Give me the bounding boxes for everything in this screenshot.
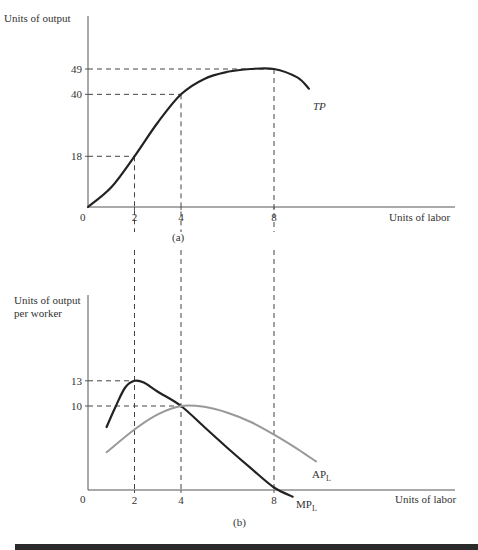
mpl-label-main: MP (296, 498, 312, 510)
panel-b-y-axis-label-line1: Units of output (14, 294, 81, 306)
page-edge-shadow (15, 544, 478, 550)
panel-b-caption: (b) (233, 516, 246, 529)
panel-b-x-tick-label-4: 4 (178, 494, 184, 506)
panel-a-y-tick-label-18: 18 (71, 150, 83, 162)
panel-a-x-tick-label-8: 8 (271, 211, 277, 223)
mpl-curve-label: MPL (296, 498, 317, 513)
panel-b-y-tick-label-13: 13 (71, 375, 83, 387)
panel-a-x-axis-label: Units of labor (389, 211, 450, 223)
panel-a-y-axis-label: Units of output (4, 12, 71, 24)
mpl-label-sub: L (312, 504, 317, 513)
apl-curve-label: APL (312, 468, 331, 483)
panel-a-y-tick-label-49: 49 (71, 63, 83, 75)
panel-b-x-tick-label-8: 8 (271, 494, 277, 506)
panel-a-caption: (a) (172, 231, 185, 244)
panel-b-x-tick-label-2: 2 (132, 494, 138, 506)
panel-a-y-tick-label-40: 40 (71, 88, 83, 100)
panel-a-curve-tp (88, 68, 309, 207)
production-function-chart: Units of output 0 Units of labor (a) TP … (0, 0, 478, 550)
tp-curve-label: TP (313, 100, 326, 112)
panel-a-x-tick-label-4: 4 (178, 211, 184, 223)
panel-a-x-tick-label-2: 2 (132, 211, 138, 223)
panel-b-y-tick-label-10: 10 (71, 400, 83, 412)
apl-label-main: AP (312, 468, 326, 480)
apl-label-sub: L (326, 474, 331, 483)
panel-b-x-axis-label: Units of labor (395, 493, 456, 505)
panel-a-origin-label: 0 (80, 211, 86, 223)
chart-marks: 2481840492481013 (71, 16, 455, 506)
panel-b-origin-label: 0 (80, 493, 86, 505)
panel-b-y-axis-label-line2: per worker (14, 307, 62, 319)
